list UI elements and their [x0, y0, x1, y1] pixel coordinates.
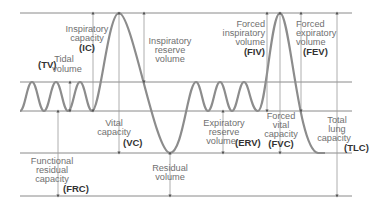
label-fev: Forced expiratory volume (FEV) [296, 19, 337, 57]
vc-abbr: (VC) [123, 137, 143, 148]
label-vc: Vital capacity (VC) [97, 118, 142, 148]
fev-abbr: (FEV) [303, 46, 328, 57]
vc-text-2: capacity [97, 127, 131, 137]
frc-abbr: (FRC) [63, 183, 89, 194]
label-frc: Functional residual capacity (FRC) [31, 156, 89, 194]
tv-text-2: volume [52, 64, 82, 74]
irv-text-3: volume [155, 54, 185, 64]
erv-abbr: (ERV) [235, 137, 261, 148]
ic-abbr: (IC) [79, 42, 95, 53]
label-irv: Inspiratory reserve volume [149, 36, 192, 64]
tlc-abbr: (TLC) [344, 142, 369, 153]
fvc-abbr: (FVC) [268, 138, 293, 149]
tv-text-1: Tidal [54, 54, 74, 64]
erv-text-3: volume [206, 136, 236, 146]
label-tlc: Total lung capacity (TLC) [317, 115, 369, 153]
label-erv: Expiratory reserve volume (ERV) [203, 118, 260, 148]
label-rv: Residual volume [152, 163, 188, 182]
fiv-abbr: (FIV) [244, 46, 265, 57]
label-fvc: Forced vital capacity (FVC) [264, 111, 298, 149]
rv-text-2: volume [155, 172, 185, 182]
label-tv: (TV) Tidal volume [38, 54, 82, 74]
lung-volumes-diagram: (TV) Tidal volume Inspiratory capacity (… [0, 0, 380, 210]
label-fiv: Forced inspiratory volume (FIV) [223, 19, 266, 57]
label-ic: Inspiratory capacity (IC) [66, 24, 109, 53]
